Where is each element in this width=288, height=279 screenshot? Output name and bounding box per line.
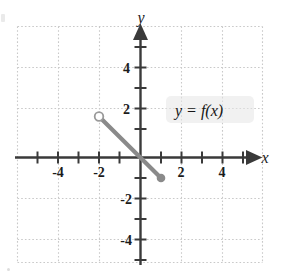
x-tick-label-pos2: 2 bbox=[178, 165, 185, 180]
x-axis-label: x bbox=[260, 149, 268, 166]
x-tick-label-neg2: -2 bbox=[93, 165, 105, 180]
y-axis-label: y bbox=[135, 9, 145, 27]
curve-label: y = f(x) bbox=[173, 102, 223, 120]
function-segment bbox=[99, 117, 161, 179]
y-tick-label-neg4: -4 bbox=[120, 233, 132, 248]
open-endpoint-marker bbox=[95, 112, 104, 121]
function-graph-figure: -4 -2 2 4 4 2 -2 -4 x y y = f(x) bbox=[0, 0, 288, 279]
coordinate-plane: -4 -2 2 4 4 2 -2 -4 x y y = f(x) bbox=[0, 0, 288, 279]
x-tick-label-neg4: -4 bbox=[52, 165, 64, 180]
y-tick-label-neg2: -2 bbox=[120, 192, 132, 207]
y-tick-label-pos4: 4 bbox=[123, 61, 130, 76]
x-tick-label-pos4: 4 bbox=[219, 165, 226, 180]
y-tick-label-pos2: 2 bbox=[123, 102, 130, 117]
closed-endpoint-marker bbox=[157, 174, 166, 183]
